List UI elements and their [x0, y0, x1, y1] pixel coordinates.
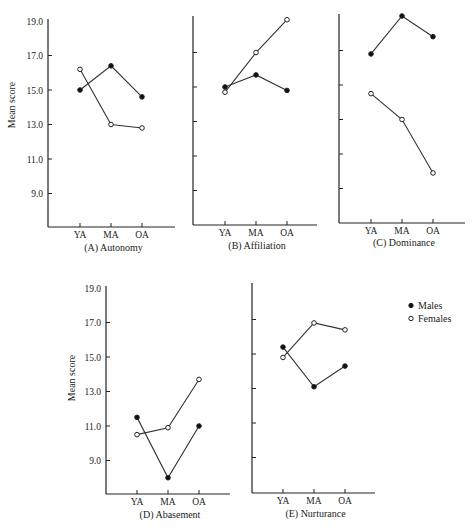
y-axis-label: Mean score — [6, 81, 17, 128]
y-tick-label: 15.0 — [26, 86, 43, 96]
open-circle-marker — [78, 67, 83, 72]
filled-circle-marker — [343, 364, 348, 369]
panel-caption: (B) Affiliation — [228, 240, 285, 252]
open-circle-marker — [254, 50, 259, 55]
panel-c: YAMAOA(C) Dominance — [339, 14, 465, 249]
panel-a: 19.017.015.013.011.09.0Mean scoreYAMAOA(… — [6, 17, 175, 255]
x-tick-label: YA — [219, 228, 232, 238]
series-line-females — [225, 20, 287, 92]
series-line-males — [80, 66, 142, 97]
panel-caption: (C) Dominance — [373, 237, 435, 249]
series-line-males — [283, 347, 345, 387]
x-tick-label: MA — [248, 228, 263, 238]
open-circle-marker — [109, 122, 114, 127]
series-line-females — [283, 323, 345, 358]
x-tick-label: YA — [74, 230, 87, 240]
open-circle-marker — [312, 321, 317, 326]
filled-circle-marker — [109, 64, 114, 69]
series-line-females — [80, 69, 142, 128]
filled-circle-marker — [140, 95, 145, 100]
panel-caption: (A) Autonomy — [84, 242, 143, 254]
legend-filled-circle-icon — [409, 303, 413, 307]
legend-label: Males — [418, 300, 443, 311]
open-circle-marker — [166, 425, 171, 430]
panel-caption: (E) Nurturance — [285, 508, 346, 520]
x-tick-label: OA — [192, 497, 206, 507]
y-tick-label: 19.0 — [26, 17, 43, 27]
filled-circle-marker — [400, 14, 405, 19]
x-tick-label: MA — [306, 496, 321, 506]
series-line-females — [371, 94, 433, 173]
open-circle-marker — [285, 17, 290, 22]
x-tick-label: YA — [131, 497, 144, 507]
panel-d: 19.017.015.013.011.09.0Mean scoreYAMAOA(… — [66, 284, 230, 522]
filled-circle-marker — [223, 85, 228, 90]
legend-open-circle-icon — [409, 316, 413, 320]
filled-circle-marker — [135, 415, 140, 420]
x-tick-label: YA — [277, 496, 290, 506]
x-tick-label: YA — [365, 226, 378, 236]
filled-circle-marker — [197, 424, 202, 429]
open-circle-marker — [281, 355, 286, 360]
filled-circle-marker — [312, 384, 317, 389]
y-tick-label: 19.0 — [84, 284, 101, 294]
filled-circle-marker — [431, 34, 436, 39]
y-tick-label: 9.0 — [89, 456, 101, 466]
open-circle-marker — [135, 432, 140, 437]
x-tick-label: OA — [338, 496, 352, 506]
legend-label: Females — [418, 313, 451, 324]
y-axis-label: Mean score — [66, 354, 77, 401]
y-tick-label: 17.0 — [26, 51, 43, 61]
open-circle-marker — [197, 377, 202, 382]
open-circle-marker — [223, 90, 228, 95]
panel-e: YAMAOA(E) Nurturance — [252, 283, 375, 520]
x-tick-label: MA — [103, 230, 118, 240]
open-circle-marker — [140, 126, 145, 131]
x-tick-label: OA — [280, 228, 294, 238]
x-tick-label: MA — [394, 226, 409, 236]
legend: MalesFemales — [409, 300, 452, 324]
filled-circle-marker — [78, 88, 83, 93]
series-line-males — [371, 16, 433, 54]
filled-circle-marker — [369, 52, 374, 57]
panel-b: YAMAOA(B) Affiliation — [193, 16, 317, 252]
y-tick-label: 13.0 — [26, 120, 43, 130]
y-tick-label: 9.0 — [31, 189, 43, 199]
open-circle-marker — [431, 171, 436, 176]
filled-circle-marker — [281, 345, 286, 350]
figure-canvas: 19.017.015.013.011.09.0Mean scoreYAMAOA(… — [0, 0, 472, 531]
open-circle-marker — [400, 117, 405, 122]
y-tick-label: 11.0 — [27, 155, 44, 165]
open-circle-marker — [369, 91, 374, 96]
x-tick-label: MA — [160, 497, 175, 507]
panel-caption: (D) Abasement — [140, 509, 201, 521]
y-tick-label: 13.0 — [84, 387, 101, 397]
filled-circle-marker — [166, 475, 171, 480]
y-tick-label: 15.0 — [84, 353, 101, 363]
y-tick-label: 11.0 — [85, 422, 102, 432]
y-tick-label: 17.0 — [84, 318, 101, 328]
filled-circle-marker — [285, 88, 290, 93]
open-circle-marker — [343, 328, 348, 333]
filled-circle-marker — [254, 73, 259, 78]
x-tick-label: OA — [135, 230, 149, 240]
x-tick-label: OA — [426, 226, 440, 236]
